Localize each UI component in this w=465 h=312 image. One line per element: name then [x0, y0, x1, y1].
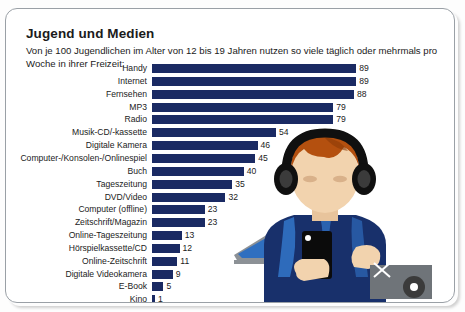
- chart-row: Online-Tageszeitung13: [6, 230, 455, 241]
- bar-category-label: Fernsehen: [106, 89, 147, 100]
- infographic-card: Jugend und Medien Von je 100 Jugendliche…: [5, 8, 455, 303]
- bar-value-label: 79: [336, 102, 346, 113]
- bar-value-label: 12: [183, 243, 193, 254]
- bar: [152, 77, 356, 86]
- bar: [152, 115, 333, 124]
- bar-category-label: Radio: [125, 114, 147, 125]
- bar-category-label: Kino: [130, 294, 147, 303]
- chart-row: Hörspielkassette/CD12: [6, 243, 455, 254]
- chart-row: Internet89: [6, 76, 455, 87]
- bar-category-label: Tageszeitung: [96, 179, 147, 190]
- bar: [152, 282, 163, 291]
- bar-category-label: Online-Zeitschrift: [82, 256, 147, 267]
- bar-value-label: 13: [185, 230, 195, 241]
- bar-category-label: Musik-CD/-kassette: [72, 127, 147, 138]
- bar-category-label: Computer (offline): [78, 204, 147, 215]
- bar-value-label: 23: [208, 204, 218, 215]
- chart-row: Digitale Videokamera9: [6, 269, 455, 280]
- chart-row: Digitale Kamera46: [6, 140, 455, 151]
- bar: [152, 154, 255, 163]
- bar-value-label: 11: [180, 256, 189, 267]
- bar: [152, 180, 232, 189]
- bar: [152, 103, 333, 112]
- bar-category-label: Buch: [127, 166, 147, 177]
- bar: [152, 128, 276, 137]
- bar: [152, 90, 354, 99]
- bar-value-label: 40: [247, 166, 257, 177]
- bar-category-label: Digitale Videokamera: [65, 269, 147, 280]
- bar-category-label: Online-Tageszeitung: [69, 230, 147, 241]
- chart-row: MP379: [6, 102, 455, 113]
- infographic-card-root: Jugend und Medien Von je 100 Jugendliche…: [0, 0, 465, 312]
- bar-value-label: 45: [258, 153, 268, 164]
- bar-category-label: Handy: [122, 63, 147, 74]
- chart-row: DVD/Video32: [6, 192, 455, 203]
- chart-row: Computer-/Konsolen-/Onlinespiel45: [6, 153, 455, 164]
- bar: [152, 193, 225, 202]
- bar-category-label: Hörspielkassette/CD: [69, 243, 147, 254]
- bar-value-label: 1: [158, 294, 163, 303]
- bar-value-label: 9: [176, 269, 181, 280]
- bar-chart: Handy89Internet89Fernsehen88MP379Radio79…: [6, 9, 455, 303]
- chart-row: Musik-CD/-kassette54: [6, 127, 455, 138]
- chart-row: E-Book5: [6, 281, 455, 292]
- chart-row: Buch40: [6, 166, 455, 177]
- bar: [152, 167, 244, 176]
- bar: [152, 231, 182, 240]
- bar: [152, 295, 155, 303]
- bar-category-label: Computer-/Konsolen-/Onlinespiel: [20, 153, 147, 164]
- bar-value-label: 32: [228, 192, 238, 203]
- bar: [152, 270, 173, 279]
- chart-row: Computer (offline)23: [6, 204, 455, 215]
- chart-row: Online-Zeitschrift11: [6, 256, 455, 267]
- chart-row: Radio79: [6, 114, 455, 125]
- chart-row: Kino1: [6, 294, 455, 303]
- chart-row: Handy89: [6, 63, 455, 74]
- bar-category-label: Digitale Kamera: [86, 140, 147, 151]
- bar-category-label: MP3: [129, 102, 147, 113]
- bar: [152, 64, 356, 73]
- bar: [152, 257, 177, 266]
- chart-row: Zeitschrift/Magazin23: [6, 217, 455, 228]
- bar: [152, 205, 205, 214]
- bar-category-label: E-Book: [119, 281, 147, 292]
- bar-value-label: 54: [279, 127, 289, 138]
- bar-category-label: Internet: [118, 76, 147, 87]
- bar-value-label: 89: [359, 63, 369, 74]
- bar-category-label: Zeitschrift/Magazin: [75, 217, 147, 228]
- chart-row: Tageszeitung35: [6, 179, 455, 190]
- bar-value-label: 88: [357, 89, 367, 100]
- bar-value-label: 35: [235, 179, 245, 190]
- chart-row: Fernsehen88: [6, 89, 455, 100]
- bar-value-label: 79: [336, 114, 346, 125]
- bar-value-label: 5: [166, 281, 171, 292]
- bar-value-label: 23: [208, 217, 218, 228]
- bar: [152, 141, 258, 150]
- bar: [152, 218, 205, 227]
- bar: [152, 244, 180, 253]
- bar-category-label: DVD/Video: [105, 192, 147, 203]
- bar-value-label: 46: [261, 140, 271, 151]
- bar-value-label: 89: [359, 76, 369, 87]
